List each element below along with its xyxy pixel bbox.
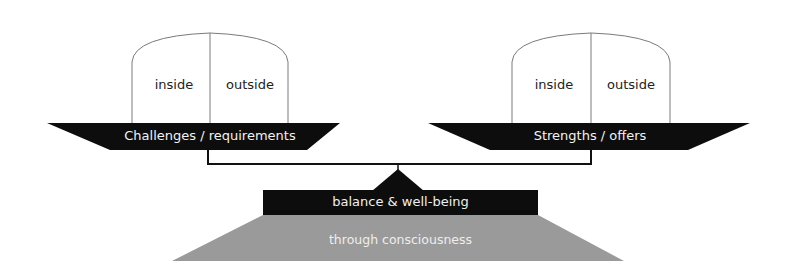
- left-tray-label: Challenges / requirements: [100, 128, 320, 143]
- right-bucket-inside-label: inside: [520, 77, 588, 92]
- base-label: through consciousness: [263, 232, 538, 247]
- scale-beam: [208, 148, 591, 164]
- right-bucket-outside-label: outside: [593, 77, 669, 92]
- fulcrum-peak: [372, 169, 424, 191]
- left-bucket-inside-label: inside: [140, 77, 208, 92]
- fulcrum-label: balance & well-being: [263, 194, 538, 209]
- right-tray-label: Strengths / offers: [480, 128, 700, 143]
- left-bucket-outside-label: outside: [212, 77, 288, 92]
